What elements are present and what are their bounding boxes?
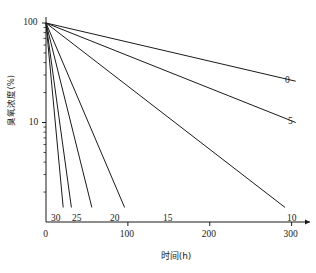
series-label-0: 0 xyxy=(285,76,290,86)
y-tick-label: 10 xyxy=(29,118,39,128)
series-lines-group xyxy=(46,23,296,207)
y-axis-title: 臭氧浓度(%) xyxy=(7,65,16,135)
series-label-5: 5 xyxy=(288,117,293,127)
series-label-20: 20 xyxy=(110,214,120,224)
x-tick-label: 100 xyxy=(120,230,134,240)
x-axis-arrow xyxy=(305,220,310,225)
axes-group xyxy=(46,17,310,224)
x-tick-label: 200 xyxy=(202,230,216,240)
series-label-10: 10 xyxy=(287,214,297,224)
series-line-25 xyxy=(46,23,71,207)
series-line-30 xyxy=(46,23,63,207)
tick-marks-group xyxy=(42,23,292,226)
series-label-15: 15 xyxy=(163,214,173,224)
series-label-30: 30 xyxy=(51,214,61,224)
ozone-decay-chart: 10010 0100200300 051015202530 臭氧浓度(%) 时间… xyxy=(0,0,316,273)
series-label-25: 25 xyxy=(72,214,82,224)
x-tick-label: 0 xyxy=(43,230,48,240)
x-tick-label: 300 xyxy=(284,230,298,240)
x-axis-title: 时间(h) xyxy=(128,252,224,261)
y-tick-label: 100 xyxy=(23,18,37,28)
